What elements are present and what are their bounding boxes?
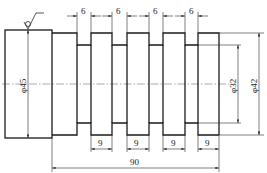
extension-lines-top bbox=[77, 12, 198, 33]
dim-overall-length: 90 bbox=[130, 157, 140, 167]
dim-diameter-45: φ45 bbox=[18, 78, 28, 93]
dim-groove-3: 6 bbox=[153, 6, 158, 16]
dim-groove-1: 6 bbox=[81, 6, 86, 16]
roughness-check-icon bbox=[24, 13, 44, 29]
dim-diameter-32: φ32 bbox=[228, 79, 238, 93]
dim-diameter-42: φ42 bbox=[249, 79, 259, 93]
dim-groove-4: 6 bbox=[189, 6, 194, 16]
dim-land-1: 9 bbox=[98, 138, 103, 148]
dim-land-4: 9 bbox=[205, 138, 210, 148]
dim-land-3: 9 bbox=[171, 138, 176, 148]
shaft-bottom-profile bbox=[52, 123, 219, 135]
shaft-drawing: 6 6 6 6 9 9 9 9 90 φ45 φ32 φ42 bbox=[0, 0, 267, 173]
dim-groove-2: 6 bbox=[116, 6, 121, 16]
dim-land-2: 9 bbox=[134, 138, 139, 148]
